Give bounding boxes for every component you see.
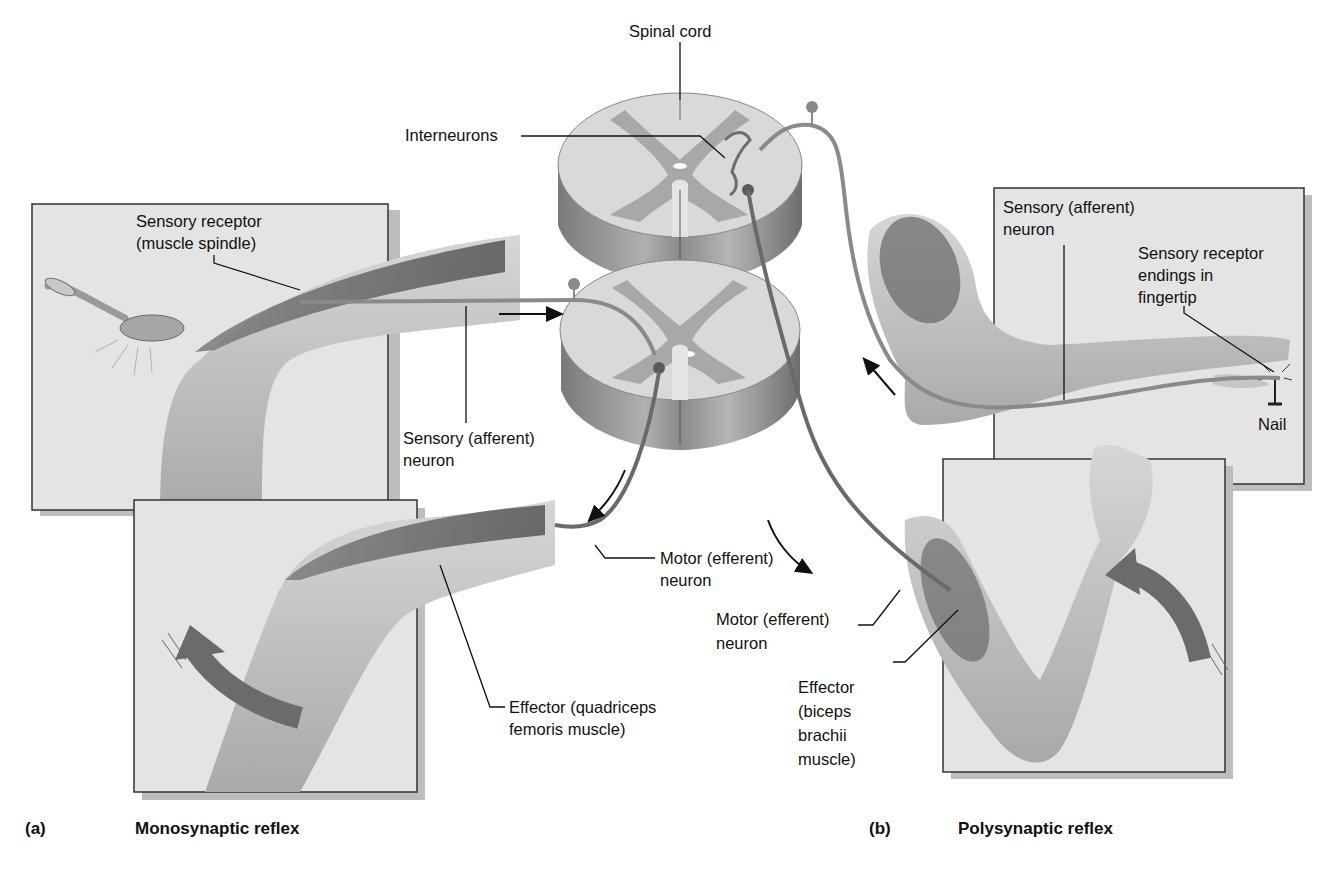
spinal-cord-bottom <box>560 260 800 450</box>
panel-b-letter: (b) <box>869 819 891 839</box>
label-b-motor-neuron-line1: Motor (efferent) <box>716 609 829 629</box>
label-b-receptor-line3: fingertip <box>1138 287 1197 307</box>
label-b-effector-line4: muscle) <box>798 749 856 769</box>
label-a-sensory-neuron-line1: Sensory (afferent) <box>403 428 535 448</box>
label-a-sensory-receptor-line1: Sensory receptor <box>136 211 262 231</box>
label-a-sensory-neuron-line2: neuron <box>403 450 454 470</box>
label-b-effector-line2: (biceps <box>798 701 851 721</box>
panel-a-title: Monosynaptic reflex <box>135 819 299 839</box>
label-a-motor-neuron-line2: neuron <box>660 570 711 590</box>
label-a-motor-neuron-line1: Motor (efferent) <box>660 548 773 568</box>
panel-b-title: Polysynaptic reflex <box>958 819 1113 839</box>
spinal-cord-top <box>558 93 802 285</box>
label-b-sensory-neuron-line2: neuron <box>1003 219 1054 239</box>
label-b-sensory-neuron-line1: Sensory (afferent) <box>1003 197 1135 217</box>
label-b-effector-line1: Effector <box>798 677 855 697</box>
label-a-sensory-receptor-line2: (muscle spindle) <box>136 233 256 253</box>
label-interneurons: Interneurons <box>405 125 498 145</box>
panel-a-letter: (a) <box>25 819 46 839</box>
label-spinal-cord: Spinal cord <box>629 21 712 41</box>
label-b-nail: Nail <box>1258 414 1286 434</box>
label-b-receptor-line2: endings in <box>1138 265 1213 285</box>
label-a-effector-line1: Effector (quadriceps <box>509 697 656 717</box>
label-a-effector-line2: femoris muscle) <box>509 719 625 739</box>
label-b-effector-line3: brachii <box>798 725 847 745</box>
label-b-motor-neuron-line2: neuron <box>716 633 767 653</box>
reflex-diagram-art <box>0 0 1340 871</box>
label-b-receptor-line1: Sensory receptor <box>1138 243 1264 263</box>
